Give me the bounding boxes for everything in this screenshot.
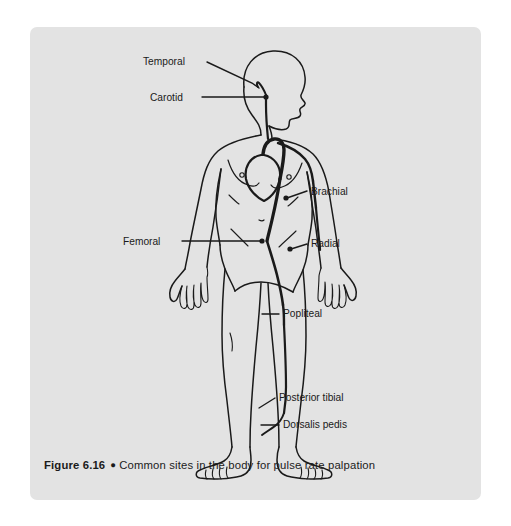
- dorsalis-pedis-artery: [262, 413, 284, 435]
- neck-outline: [244, 87, 261, 135]
- left-hip-crease: [231, 229, 248, 246]
- left-hand: [170, 269, 185, 301]
- label-dorsalis-pedis: Dorsalis pedis: [283, 419, 347, 430]
- leader-line-brachial: [287, 191, 307, 198]
- leader-dot-radial: [287, 246, 292, 251]
- left-inner-arm: [207, 169, 221, 267]
- label-carotid: Carotid: [150, 92, 183, 103]
- label-texts: TemporalCarotidBrachialRadialFemoralPopl…: [123, 56, 348, 430]
- anatomy-diagram: TemporalCarotidBrachialRadialFemoralPopl…: [30, 27, 481, 500]
- right-nipple: [287, 175, 291, 179]
- right-hip-crease: [279, 231, 296, 247]
- figure-caption: Figure 6.16●Common sites in the body for…: [44, 459, 474, 471]
- figure-panel: TemporalCarotidBrachialRadialFemoralPopl…: [30, 27, 481, 500]
- heart-shape: [246, 155, 280, 201]
- right-fingers: [318, 268, 346, 308]
- leader-dot-brachial: [283, 195, 288, 200]
- label-temporal: Temporal: [143, 56, 185, 67]
- head-profile: [244, 51, 305, 130]
- pelvis-outline: [220, 245, 235, 291]
- left-nipple: [240, 173, 244, 177]
- left-fingers: [180, 267, 208, 309]
- left-knee-crease: [230, 333, 232, 351]
- label-leaders: [182, 62, 307, 425]
- figure-caption-text: Common sites in the body for pulse rate …: [119, 459, 375, 471]
- leader-line-temporal: [207, 62, 259, 88]
- leader-dot-femoral: [259, 238, 264, 243]
- figure-caption-bullet: ●: [105, 459, 119, 470]
- pelvis-outline-right: [293, 245, 308, 292]
- right-pectoral: [271, 163, 302, 188]
- left-leg-inner: [250, 283, 261, 447]
- label-leader-dots: [259, 94, 292, 251]
- leader-line-radial: [291, 244, 307, 249]
- navel: [259, 220, 264, 221]
- temporal-artery: [257, 82, 266, 95]
- label-brachial: Brachial: [311, 186, 348, 197]
- right-hand: [341, 268, 356, 300]
- right-leg-inner: [268, 283, 279, 447]
- right-torso: [307, 172, 312, 245]
- right-rib-hint: [288, 197, 298, 206]
- crotch: [235, 282, 293, 292]
- carotid-artery: [266, 95, 268, 139]
- label-popliteal: Popliteal: [283, 308, 322, 319]
- label-radial: Radial: [311, 238, 340, 249]
- left-shoulder-arm: [185, 135, 261, 269]
- left-rib-hint: [229, 195, 239, 204]
- leader-dot-carotid: [263, 94, 268, 99]
- label-femoral: Femoral: [123, 236, 160, 247]
- label-posterior-tibial: Posterior tibial: [279, 392, 344, 403]
- descending-aorta: [267, 179, 280, 241]
- body-outline: [170, 51, 357, 479]
- leader-line-posterior-tibial: [259, 398, 275, 408]
- left-leg-outer: [222, 269, 232, 447]
- figure-caption-number: Figure 6.16: [44, 459, 105, 471]
